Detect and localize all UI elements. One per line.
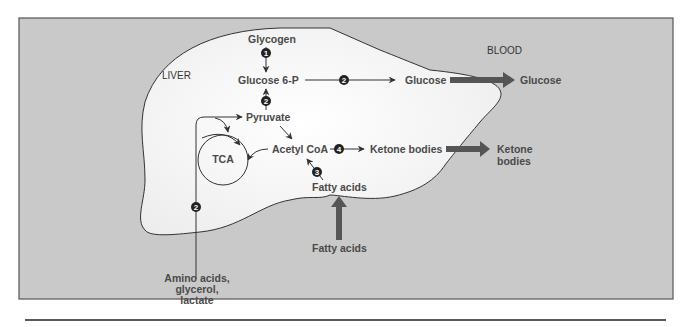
blood-label: BLOOD bbox=[487, 45, 522, 56]
acetyl-coa-label: Acetyl CoA bbox=[272, 143, 328, 155]
glucose-6p-label: Glucose 6-P bbox=[238, 74, 299, 86]
pyruvate-label: Pyruvate bbox=[246, 111, 291, 123]
ketone-blood-label-2: bodies bbox=[497, 155, 531, 167]
svg-text:2: 2 bbox=[342, 76, 347, 85]
fatty-acids-liver-label: Fatty acids bbox=[312, 181, 367, 193]
precursors-label-3: lactate bbox=[180, 294, 213, 306]
fatty-acids-blood-label: Fatty acids bbox=[312, 242, 367, 254]
liver-label: LIVER bbox=[162, 70, 191, 81]
svg-text:4: 4 bbox=[337, 145, 342, 154]
tca-label: TCA bbox=[212, 153, 234, 165]
glucose-liver-label: Glucose bbox=[405, 74, 447, 86]
glucose-blood-label: Glucose bbox=[520, 74, 562, 86]
ketone-blood-label-1: Ketone bbox=[497, 143, 533, 155]
svg-text:2: 2 bbox=[194, 203, 199, 212]
svg-text:3: 3 bbox=[315, 168, 320, 177]
svg-text:2: 2 bbox=[264, 97, 269, 106]
svg-text:1: 1 bbox=[264, 49, 269, 58]
glycogen-label: Glycogen bbox=[248, 33, 296, 45]
ketone-liver-label: Ketone bodies bbox=[370, 143, 443, 155]
liver-metabolism-diagram: LIVER BLOOD Glycogen 1 Glucose 6-P 2 2 G… bbox=[0, 0, 689, 327]
